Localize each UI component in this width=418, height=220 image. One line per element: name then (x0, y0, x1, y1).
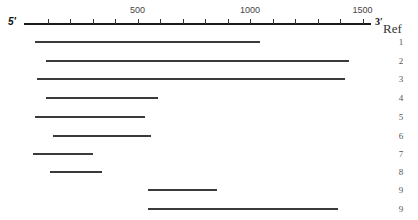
axis-tick (138, 19, 139, 24)
axis-tick (250, 19, 251, 24)
tick-label: 500 (130, 5, 145, 15)
axis-tick (228, 19, 229, 24)
axis-tick (160, 19, 161, 24)
fragment-line (35, 41, 260, 43)
ref-number: 6 (396, 131, 406, 141)
ref-number: 3 (396, 74, 406, 84)
axis-tick (295, 19, 296, 24)
sequence-axis (24, 23, 371, 25)
axis-tick (205, 19, 206, 24)
axis-tick (115, 19, 116, 24)
axis-tick (273, 19, 274, 24)
fragment-line (46, 97, 157, 99)
axis-tick (183, 19, 184, 24)
ref-number: 9 (396, 204, 406, 214)
fragment-line (37, 78, 344, 80)
three-prime-label: 3′ (375, 16, 383, 27)
axis-tick (48, 19, 49, 24)
ref-number: 5 (396, 112, 406, 122)
axis-tick (70, 19, 71, 24)
ref-number: 2 (396, 56, 406, 66)
tick-label: 1500 (352, 5, 372, 15)
ref-number: 8 (396, 167, 406, 177)
fragment-line (148, 189, 218, 191)
five-prime-label: 5′ (8, 16, 16, 27)
fragment-line (33, 153, 93, 155)
fragment-line (148, 208, 338, 210)
axis-tick (93, 19, 94, 24)
ref-column-header: Ref (383, 21, 402, 37)
fragment-line (35, 116, 145, 118)
fragment-line (53, 135, 151, 137)
fragment-line (46, 60, 349, 62)
axis-tick (318, 19, 319, 24)
axis-tick (363, 19, 364, 24)
axis-tick (340, 19, 341, 24)
fragment-line (50, 171, 102, 173)
ref-number: 1 (396, 37, 406, 47)
ref-number: 4 (396, 93, 406, 103)
tick-label: 1000 (240, 5, 260, 15)
ref-number: 7 (396, 149, 406, 159)
ref-number: 9 (396, 185, 406, 195)
